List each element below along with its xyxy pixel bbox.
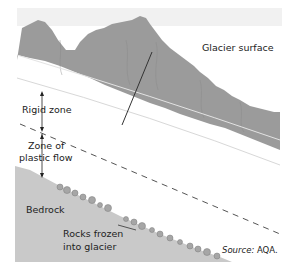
source-label: Source: AQA. <box>222 245 278 256</box>
zone-plastic-label-1: Zone of <box>28 140 64 151</box>
glacier-surface-label: Glacier surface <box>202 42 274 53</box>
rigid-zone-arrowhead-up <box>40 91 44 96</box>
source-name: AQA. <box>257 245 278 255</box>
rigid-zone-arrowhead-down <box>40 127 44 132</box>
mountain-background <box>17 16 280 150</box>
source-prefix: Source: <box>222 245 254 255</box>
plastic-flow-arrowhead-up <box>40 134 44 139</box>
zone-plastic-label-2: plastic flow <box>19 152 73 163</box>
bedrock-label: Bedrock <box>26 204 65 215</box>
rigid-zone-label: Rigid zone <box>22 104 72 115</box>
rocks-label-1: Rocks frozen <box>63 228 123 239</box>
rocks-label-2: into glacier <box>63 241 116 252</box>
